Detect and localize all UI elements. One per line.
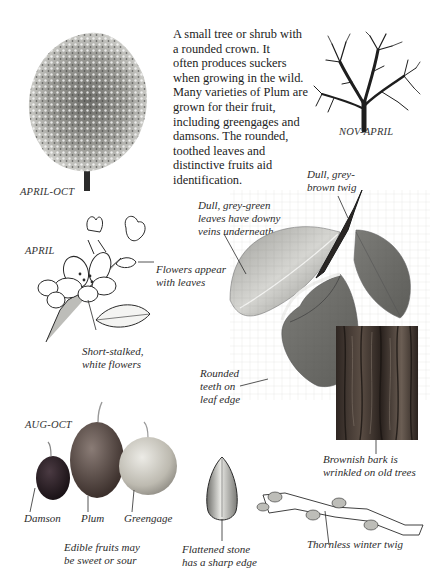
caption-line: Flattened stone bbox=[182, 543, 257, 556]
intro-line: including greengages and bbox=[173, 115, 323, 130]
flower-spray-illustration bbox=[26, 210, 156, 340]
caption-line: be sweet or sour bbox=[64, 554, 140, 567]
caption-line: with leaves bbox=[156, 276, 226, 289]
caption-greengage: Greengage bbox=[124, 512, 172, 525]
caption-winter-twig: Thornless winter twig bbox=[307, 538, 403, 551]
intro-line: grown for their fruit, bbox=[173, 100, 323, 115]
caption-line: Dull, grey- bbox=[307, 168, 356, 181]
intro-line: distinctive fruits aid bbox=[173, 158, 323, 173]
flower-leaf bbox=[96, 305, 150, 327]
stone-illustration bbox=[202, 455, 242, 545]
caption-line: Rounded bbox=[200, 367, 240, 380]
intro-line: Many varieties of Plum are bbox=[173, 85, 323, 100]
intro-line: when growing in the wild. bbox=[173, 71, 323, 86]
season-label-summer: APRIL-OCT bbox=[20, 186, 74, 197]
caption-flowers-appear: Flowers appear with leaves bbox=[156, 263, 226, 289]
caption-line: teeth on bbox=[200, 380, 240, 393]
plum-fruit bbox=[70, 422, 124, 498]
summer-tree-illustration bbox=[20, 25, 160, 195]
caption-line: leaf edge bbox=[200, 393, 240, 406]
caption-line: Flowers appear bbox=[156, 263, 226, 276]
caption-damson: Damson bbox=[24, 512, 61, 525]
caption-line: wrinkled on old trees bbox=[323, 466, 416, 479]
caption-edible: Edible fruits may be sweet or sour bbox=[64, 541, 140, 567]
caption-line: Brownish bark is bbox=[323, 453, 416, 466]
fruits-illustration bbox=[20, 400, 185, 520]
bark-illustration bbox=[336, 326, 418, 440]
caption-stone: Flattened stone has a sharp edge bbox=[182, 543, 257, 569]
caption-line: Short-stalked, bbox=[82, 345, 143, 358]
intro-line: toothed leaves and bbox=[173, 144, 323, 159]
intro-line: A small tree or shrub with bbox=[173, 27, 323, 42]
caption-plum: Plum bbox=[81, 512, 104, 525]
intro-line: often produces suckers bbox=[173, 56, 323, 71]
damson-fruit bbox=[36, 456, 70, 500]
greengage-fruit bbox=[119, 437, 177, 495]
caption-line: Edible fruits may bbox=[64, 541, 140, 554]
caption-short-stalked: Short-stalked, white flowers bbox=[82, 345, 143, 371]
season-label-winter: NOV-APRIL bbox=[339, 126, 393, 137]
caption-line: has a sharp edge bbox=[182, 556, 257, 569]
intro-line: a rounded crown. It bbox=[173, 42, 323, 57]
caption-line: white flowers bbox=[82, 358, 143, 371]
winter-twig-illustration bbox=[255, 485, 425, 545]
intro-paragraph: A small tree or shrub with a rounded cro… bbox=[173, 27, 323, 188]
teeth-pointer-line bbox=[240, 378, 270, 388]
caption-bark: Brownish bark is wrinkled on old trees bbox=[323, 453, 416, 479]
winter-tree-illustration bbox=[312, 32, 422, 132]
intro-line: damsons. The rounded, bbox=[173, 129, 323, 144]
caption-rounded-teeth: Rounded teeth on leaf edge bbox=[200, 367, 240, 406]
intro-line: identification. bbox=[173, 173, 323, 188]
